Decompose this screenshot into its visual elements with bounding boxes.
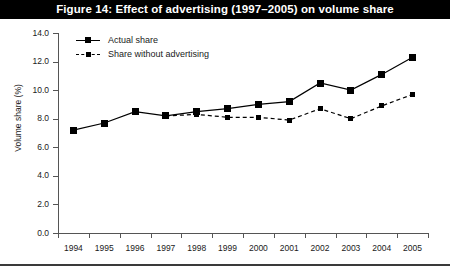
- marker-actual-share: [101, 120, 108, 127]
- series-lines: [0, 19, 450, 271]
- marker-share-without-advertising: [379, 103, 384, 108]
- marker-actual-share: [347, 87, 354, 94]
- chart-figure: Volume share (%) 14.012.010.08.06.04.02.…: [0, 19, 450, 271]
- marker-share-without-advertising: [287, 118, 292, 123]
- bottom-rule: [0, 264, 450, 266]
- legend-label-share-without-advertising: Share without advertising: [108, 48, 209, 61]
- marker-actual-share: [255, 101, 262, 108]
- marker-actual-share: [70, 127, 77, 134]
- marker-actual-share: [132, 108, 139, 115]
- marker-actual-share: [409, 54, 416, 61]
- marker-share-without-advertising: [410, 92, 415, 97]
- marker-share-without-advertising: [163, 113, 168, 118]
- marker-actual-share: [286, 98, 293, 105]
- marker-share-without-advertising: [225, 115, 230, 120]
- line-actual-share: [73, 57, 412, 130]
- marker-actual-share: [378, 71, 385, 78]
- marker-actual-share: [224, 105, 231, 112]
- marker-share-without-advertising: [318, 106, 323, 111]
- marker-actual-share: [317, 80, 324, 87]
- marker-share-without-advertising: [194, 112, 199, 117]
- marker-share-without-advertising: [348, 116, 353, 121]
- legend-marker-square-small: [86, 52, 91, 57]
- legend-label-actual-share: Actual share: [108, 34, 158, 47]
- legend-marker-square: [85, 37, 91, 43]
- figure-title-banner: Figure 14: Effect of advertising (1997–2…: [0, 0, 450, 19]
- marker-share-without-advertising: [256, 115, 261, 120]
